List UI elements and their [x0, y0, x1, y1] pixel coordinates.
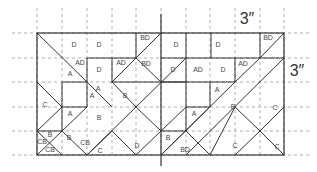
piece-labels: DDBDADADADBDAABCABBCBCBBCBCDDDBDDADDADAB…: [37, 34, 279, 154]
piece-label: A: [192, 110, 197, 117]
piece-label: B: [231, 103, 236, 110]
piece-label: BD: [263, 34, 273, 41]
piece-edge: [235, 131, 260, 155]
piece-label: C: [274, 143, 279, 150]
dimension-label: 3″: [240, 10, 255, 27]
piece-edge: [136, 131, 161, 155]
piece-label: CB: [80, 139, 90, 146]
piece-label: AD: [193, 66, 203, 73]
piece-label: CB: [45, 146, 55, 153]
piece-edge: [161, 107, 186, 131]
piece-label: B: [67, 134, 72, 141]
piece-label: B: [166, 134, 171, 141]
piece-label: AD: [238, 60, 248, 67]
quilt-diagram: DDBDADADADBDAABCABBCBCBBCBCDDDBDDADDADAB…: [0, 0, 317, 172]
piece-edge: [37, 82, 62, 107]
piece-label: D: [170, 66, 175, 73]
piece-edge: [161, 82, 235, 155]
piece-edge: [136, 107, 161, 131]
piece-edge: [210, 107, 235, 155]
piece-edge: [235, 107, 260, 131]
piece-label: BD: [141, 60, 151, 67]
piece-label: C: [42, 101, 47, 108]
piece-label: D: [215, 41, 220, 48]
piece-edge: [62, 107, 87, 131]
piece-label: D: [220, 66, 225, 73]
piece-label: B: [97, 114, 102, 121]
piece-label: BD: [140, 34, 150, 41]
piece-label: D: [96, 66, 101, 73]
piece-label: D: [96, 41, 101, 48]
piece-edge: [112, 131, 136, 155]
piece-edge: [260, 131, 284, 155]
piece-label: A: [96, 85, 101, 92]
piece-edge: [37, 107, 62, 131]
piece-label: AD: [75, 59, 85, 66]
piece-label: A: [215, 86, 220, 93]
piece-label: C: [272, 104, 277, 111]
piece-label: A: [68, 110, 73, 117]
piece-label: D: [134, 142, 139, 149]
piece-label: D: [173, 41, 178, 48]
piece-label: C: [97, 147, 102, 154]
piece-label: D: [71, 41, 76, 48]
dimension-label: 3″: [290, 62, 305, 79]
piece-label: A: [68, 70, 73, 77]
piece-label: CB: [37, 138, 47, 145]
piece-label: BD: [180, 146, 190, 153]
piece-label: C: [232, 142, 237, 149]
piece-label: B: [48, 131, 53, 138]
piece-label: A: [90, 92, 95, 99]
piece-label: AD: [116, 59, 126, 66]
piece-label: B: [123, 92, 128, 99]
